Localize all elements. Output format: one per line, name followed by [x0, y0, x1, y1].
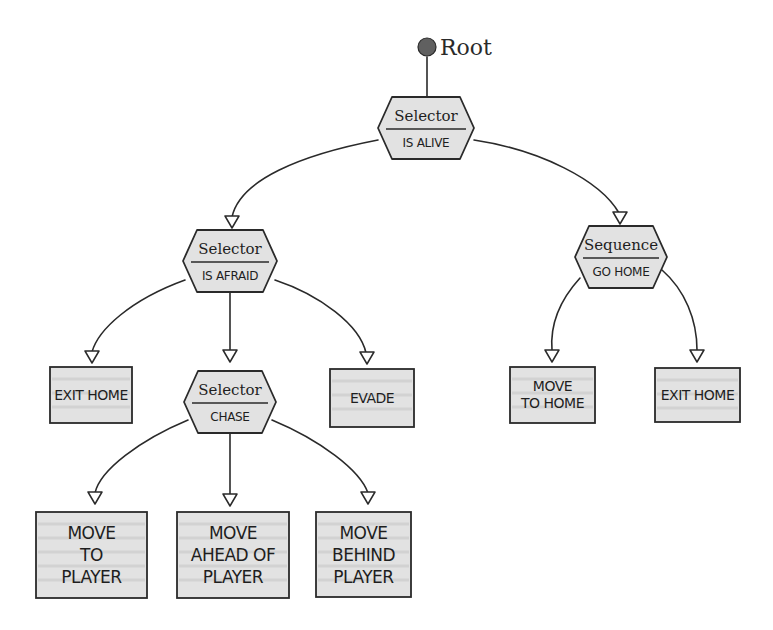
node-alive: SelectorIS ALIVE	[378, 97, 474, 159]
connector-line	[275, 280, 366, 353]
arrowhead-icon	[613, 212, 627, 224]
action-label-line: PLAYER	[203, 567, 264, 587]
node-exithome-l: EXIT HOME	[50, 367, 132, 423]
edge-n_afraid-to-n_chase	[223, 292, 237, 362]
node-movetohome: MOVETO HOME	[510, 367, 595, 423]
connector-line	[272, 420, 368, 493]
arrowhead-icon	[690, 350, 704, 362]
node-chase: SelectorCHASE	[184, 371, 276, 433]
connector-line	[95, 420, 188, 493]
nodes-layer: SelectorIS ALIVESelectorIS AFRAIDSequenc…	[36, 97, 740, 598]
node-condition-label: IS AFRAID	[202, 269, 258, 283]
node-type-label: Sequence	[584, 236, 658, 254]
action-label-line: MOVE	[339, 523, 387, 543]
connector-line	[552, 278, 580, 350]
action-label-line: EVADE	[350, 390, 394, 406]
connector-line	[474, 140, 619, 213]
connector-line	[232, 140, 378, 217]
edge-n_gohome-to-n_movetohome	[545, 278, 580, 362]
root-label: Root	[440, 35, 492, 60]
arrowhead-icon	[361, 492, 375, 504]
action-label-line: TO	[79, 545, 103, 565]
node-type-label: Selector	[198, 240, 262, 258]
node-exithome-r: EXIT HOME	[655, 368, 740, 422]
action-label-line: MOVE	[67, 523, 115, 543]
edge-n_afraid-to-n_exithome_l	[85, 280, 185, 363]
node-gohome: SequenceGO HOME	[575, 226, 667, 288]
edge-n_alive-to-n_afraid	[225, 140, 378, 228]
connector-line	[662, 270, 697, 350]
action-label-line: MOVE	[533, 378, 572, 394]
action-label-line: PLAYER	[61, 567, 122, 587]
edge-n_gohome-to-n_exithome_r	[662, 270, 704, 362]
action-label-line: BEHIND	[332, 545, 395, 565]
arrowhead-icon	[85, 351, 99, 363]
edge-n_chase-to-n_movebehind	[272, 420, 375, 504]
edge-n_chase-to-n_moveahead	[223, 433, 237, 506]
node-evade: EVADE	[330, 369, 414, 427]
edge-n_alive-to-n_gohome	[474, 140, 627, 224]
arrowhead-icon	[223, 350, 237, 362]
node-movebehind: MOVEBEHINDPLAYER	[316, 512, 411, 597]
root-dot-icon	[418, 38, 436, 56]
edge-n_afraid-to-n_evade	[275, 280, 374, 364]
node-movetoplayer: MOVETOPLAYER	[36, 512, 147, 598]
behavior-tree-diagram: SelectorIS ALIVESelectorIS AFRAIDSequenc…	[0, 0, 773, 630]
action-label-line: TO HOME	[520, 395, 584, 411]
node-type-label: Selector	[198, 381, 262, 399]
node-afraid: SelectorIS AFRAID	[183, 230, 277, 292]
edge-n_chase-to-n_movetoplayer	[88, 420, 188, 504]
arrowhead-icon	[545, 350, 559, 362]
node-condition-label: GO HOME	[593, 265, 650, 279]
arrowhead-icon	[360, 352, 374, 364]
arrowhead-icon	[88, 492, 102, 504]
arrowhead-icon	[225, 216, 239, 228]
connector-line	[92, 280, 185, 352]
arrowhead-icon	[223, 494, 237, 506]
action-label-line: EXIT HOME	[54, 387, 128, 403]
node-moveahead: MOVEAHEAD OFPLAYER	[177, 512, 289, 598]
node-type-label: Selector	[394, 107, 458, 125]
action-label-line: MOVE	[209, 523, 257, 543]
node-condition-label: IS ALIVE	[403, 136, 450, 150]
action-label-line: EXIT HOME	[661, 387, 735, 403]
node-condition-label: CHASE	[210, 410, 249, 424]
root-marker: Root	[418, 35, 492, 60]
action-label-line: AHEAD OF	[191, 545, 275, 565]
action-label-line: PLAYER	[333, 567, 394, 587]
